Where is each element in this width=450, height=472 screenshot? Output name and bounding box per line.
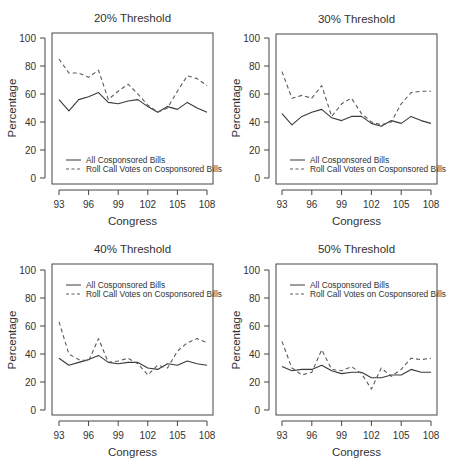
panel-20-threshold: 20% Threshold020406080100Percentage93969…	[6, 12, 222, 227]
x-tick-label: 93	[53, 199, 65, 210]
series-all-cosponsored	[59, 93, 207, 113]
y-tick-label: 0	[254, 405, 260, 416]
legend-label: Roll Call Votes on Cosponsored Bills	[86, 164, 222, 174]
y-tick-label: 20	[25, 377, 37, 388]
y-axis-title: Percentage	[6, 79, 18, 138]
x-tick-label: 93	[53, 430, 65, 441]
y-axis: 020406080100	[19, 33, 45, 184]
y-tick-label: 0	[30, 173, 36, 184]
x-tick-label: 105	[393, 199, 410, 210]
x-axis: 939699102105108	[276, 190, 439, 210]
legend: All Cosponsored BillsRoll Call Votes on …	[290, 280, 446, 299]
x-tick-label: 108	[199, 199, 216, 210]
x-tick-label: 105	[169, 430, 186, 441]
x-tick-label: 99	[113, 430, 125, 441]
y-tick-label: 80	[25, 293, 37, 304]
panel-title: 20% Threshold	[94, 12, 171, 24]
x-tick-label: 102	[363, 199, 380, 210]
y-tick-label: 20	[249, 145, 261, 156]
y-axis-title: Percentage	[230, 311, 242, 370]
x-axis-title: Congress	[332, 215, 381, 227]
x-axis-title: Congress	[332, 446, 381, 458]
x-axis-title: Congress	[108, 446, 157, 458]
panel-title: 50% Threshold	[318, 243, 395, 255]
legend-label: Roll Call Votes on Cosponsored Bills	[310, 289, 446, 299]
y-tick-label: 100	[243, 265, 260, 276]
y-tick-label: 0	[254, 173, 260, 184]
x-tick-label: 93	[276, 430, 288, 441]
y-tick-label: 80	[249, 61, 261, 72]
x-axis: 939699102105108	[276, 421, 439, 441]
y-tick-label: 40	[249, 117, 261, 128]
y-tick-label: 60	[25, 321, 37, 332]
x-tick-label: 99	[336, 430, 348, 441]
series-all-cosponsored	[282, 365, 431, 378]
y-axis: 020406080100	[243, 33, 269, 184]
legend: All Cosponsored BillsRoll Call Votes on …	[66, 280, 222, 299]
y-tick-label: 20	[249, 377, 261, 388]
x-axis-title: Congress	[108, 215, 157, 227]
y-axis: 020406080100	[19, 265, 45, 416]
y-tick-label: 100	[19, 33, 36, 44]
y-axis-title: Percentage	[230, 79, 242, 138]
x-tick-label: 105	[169, 199, 186, 210]
legend: All Cosponsored BillsRoll Call Votes on …	[290, 155, 446, 174]
figure-grid: 20% Threshold020406080100Percentage93969…	[0, 0, 450, 472]
series-all-cosponsored	[282, 109, 431, 126]
y-axis-title: Percentage	[6, 311, 18, 370]
y-tick-label: 0	[30, 405, 36, 416]
y-tick-label: 100	[243, 33, 260, 44]
legend-label: Roll Call Votes on Cosponsored Bills	[86, 289, 222, 299]
y-tick-label: 40	[249, 349, 261, 360]
y-tick-label: 60	[249, 89, 261, 100]
x-tick-label: 99	[336, 199, 348, 210]
x-tick-label: 105	[393, 430, 410, 441]
x-axis: 939699102105108	[53, 421, 215, 441]
panel-50-threshold: 50% Threshold020406080100Percentage93969…	[230, 243, 446, 458]
y-tick-label: 40	[25, 117, 37, 128]
y-tick-label: 80	[25, 61, 37, 72]
x-tick-label: 108	[423, 430, 440, 441]
series-all-cosponsored	[59, 355, 207, 369]
y-tick-label: 20	[25, 145, 37, 156]
x-tick-label: 96	[83, 199, 95, 210]
y-tick-label: 40	[25, 349, 37, 360]
x-tick-label: 93	[276, 199, 288, 210]
y-axis: 020406080100	[243, 265, 269, 416]
y-tick-label: 60	[25, 89, 37, 100]
panel-40-threshold: 40% Threshold020406080100Percentage93969…	[6, 243, 222, 458]
y-tick-label: 100	[19, 265, 36, 276]
x-tick-label: 96	[306, 199, 318, 210]
x-tick-label: 108	[423, 199, 440, 210]
y-tick-label: 60	[249, 321, 261, 332]
x-tick-label: 108	[199, 430, 216, 441]
y-tick-label: 80	[249, 293, 261, 304]
x-tick-label: 96	[83, 430, 95, 441]
series-roll-call-votes	[282, 341, 431, 389]
series-roll-call-votes	[59, 322, 207, 375]
x-axis: 939699102105108	[53, 190, 215, 210]
panel-30-threshold: 30% Threshold020406080100Percentage93969…	[230, 13, 446, 227]
legend-label: Roll Call Votes on Cosponsored Bills	[310, 164, 446, 174]
x-tick-label: 99	[113, 199, 125, 210]
x-tick-label: 102	[139, 430, 156, 441]
x-tick-label: 96	[306, 430, 318, 441]
panel-title: 30% Threshold	[318, 13, 395, 25]
legend: All Cosponsored BillsRoll Call Votes on …	[66, 155, 222, 174]
x-tick-label: 102	[139, 199, 156, 210]
panel-title: 40% Threshold	[94, 243, 171, 255]
x-tick-label: 102	[363, 430, 380, 441]
